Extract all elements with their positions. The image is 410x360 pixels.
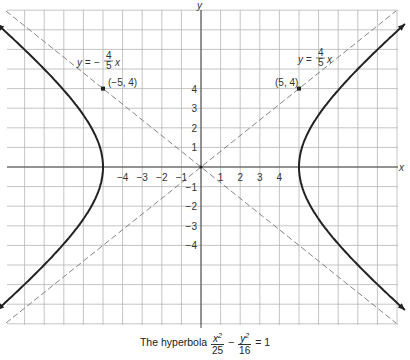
svg-text:−3: −3 bbox=[186, 221, 198, 232]
svg-text:−2: −2 bbox=[186, 201, 198, 212]
y-axis-label: y bbox=[196, 0, 203, 11]
svg-text:−3: −3 bbox=[136, 172, 148, 183]
point-right-label: (5, 4) bbox=[275, 77, 298, 88]
neg-asymptote-label: y = − 4 5 x bbox=[76, 50, 121, 71]
hyperbola-figure: −4−3−2−112344321−1−2−3−4 y x y = − 4 5 x… bbox=[0, 0, 410, 330]
x-axis-label: x bbox=[398, 162, 405, 173]
point-left-label: (−5, 4) bbox=[108, 77, 137, 88]
axes bbox=[7, 10, 398, 328]
caption-fraction-x: x2 25 bbox=[211, 330, 224, 356]
svg-text:−4: −4 bbox=[117, 172, 129, 183]
svg-text:3: 3 bbox=[257, 172, 263, 183]
svg-text:y =: y = bbox=[297, 54, 312, 65]
svg-text:4: 4 bbox=[277, 172, 283, 183]
svg-text:1: 1 bbox=[218, 172, 224, 183]
svg-text:2: 2 bbox=[237, 172, 243, 183]
svg-text:x: x bbox=[326, 54, 333, 65]
svg-text:4: 4 bbox=[191, 84, 197, 95]
svg-text:−1: −1 bbox=[186, 182, 198, 193]
svg-text:y = −: y = − bbox=[76, 57, 99, 68]
svg-text:x: x bbox=[114, 57, 121, 68]
svg-text:5: 5 bbox=[318, 57, 324, 68]
svg-text:−2: −2 bbox=[156, 172, 168, 183]
svg-text:2: 2 bbox=[191, 123, 197, 134]
caption-fraction-y: y2 16 bbox=[238, 330, 251, 356]
svg-text:−4: −4 bbox=[186, 240, 198, 251]
svg-text:1: 1 bbox=[191, 142, 197, 153]
svg-text:3: 3 bbox=[191, 103, 197, 114]
pos-asymptote-label: y = 4 5 x bbox=[297, 47, 333, 68]
svg-text:5: 5 bbox=[106, 60, 112, 71]
figure-caption: The hyperbola x2 25 − y2 16 = 1 bbox=[0, 330, 410, 356]
